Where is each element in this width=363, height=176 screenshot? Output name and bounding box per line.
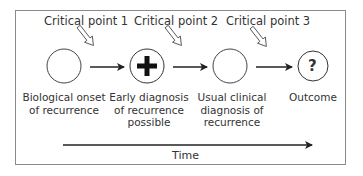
stage-4-label: Outcome — [283, 91, 343, 104]
stage-1-circle — [47, 49, 81, 83]
stage-1-label: Biological onset of recurrence — [16, 91, 112, 116]
time-axis-label: Time — [172, 149, 199, 162]
critical-point-1-arrow-icon — [75, 23, 98, 48]
critical-point-3-arrow-icon — [248, 24, 271, 49]
critical-point-2-arrow-icon — [163, 23, 186, 48]
plus-icon — [137, 56, 157, 76]
stage-3-circle — [213, 49, 247, 83]
stage-3-label: Usual clinical diagnosis of recurrence — [194, 91, 270, 129]
stage-2-label: Early diagnosis of recurrence possible — [108, 91, 190, 129]
